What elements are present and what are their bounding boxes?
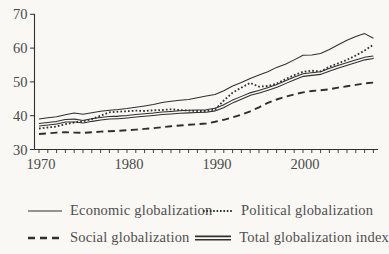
svg-text:1990: 1990: [203, 156, 232, 172]
legend-item-economic: Economic globalization: [27, 202, 199, 219]
svg-text:70: 70: [13, 6, 28, 22]
svg-text:60: 60: [13, 40, 28, 56]
legend-item-total: Total globalization index: [194, 229, 389, 246]
svg-text:1980: 1980: [115, 156, 144, 172]
dotted-line-swatch-icon: [202, 206, 234, 216]
legend-item-political: Political globalization: [202, 202, 373, 219]
line-chart-canvas: 30405060701970198019902000: [0, 0, 389, 185]
chart-legend: Economic globalization Political globali…: [0, 197, 389, 251]
svg-text:50: 50: [13, 74, 28, 90]
legend-row-1: Economic globalization Political globali…: [0, 197, 389, 224]
legend-item-social: Social globalization: [27, 229, 191, 246]
svg-text:40: 40: [13, 108, 28, 124]
dashed-line-swatch-icon: [27, 233, 63, 243]
solid-line-swatch-icon: [27, 206, 63, 216]
legend-label-total: Total globalization index: [239, 229, 389, 246]
legend-label-social: Social globalization: [70, 229, 190, 246]
legend-row-2: Social globalization Total globalization…: [0, 224, 389, 251]
svg-text:30: 30: [13, 142, 28, 158]
double-line-swatch-icon: [194, 233, 232, 243]
svg-text:2000: 2000: [291, 156, 320, 172]
legend-label-economic: Economic globalization: [70, 202, 213, 219]
svg-text:1970: 1970: [27, 156, 56, 172]
legend-label-political: Political globalization: [241, 202, 373, 219]
